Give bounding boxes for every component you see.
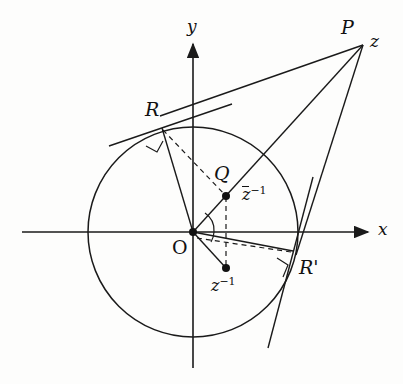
segment-P-to-R [160,45,363,116]
segment-P-to-origin [193,45,363,232]
label-y-axis: y [187,18,197,35]
point-dot-origin [189,228,197,236]
label-z-bar-inverse-base: z [242,187,250,203]
label-origin: O [172,238,188,257]
label-Q: Q [214,164,230,183]
right-angle-mark-R-prime [277,258,288,277]
label-P: P [341,18,354,37]
radius-O-to-R [162,128,193,232]
dashed-O-to-R-prime [197,238,291,252]
label-R-prime: R' [299,258,319,277]
geometry-figure: P z R R' Q z−1 z−1 O x y [0,0,403,384]
label-R: R [145,100,159,119]
label-x-axis: x [378,221,388,238]
label-z-inverse: z−1 [211,277,235,294]
point-dot-z-inverse [222,264,230,272]
point-dot-Q [222,192,230,200]
tangent-line-at-R [109,104,232,146]
angle-arc-origin-lower [211,232,214,242]
right-angle-mark-R [146,141,163,152]
segment-P-to-R-prime [296,45,363,255]
label-z: z [370,33,379,50]
label-z-inverse-exponent: −1 [219,275,235,288]
angle-arc-origin-upper [205,213,214,232]
diagram-canvas [0,0,403,384]
label-z-bar-inverse-exponent: −1 [250,184,266,197]
label-z-bar-inverse: z−1 [242,186,266,203]
